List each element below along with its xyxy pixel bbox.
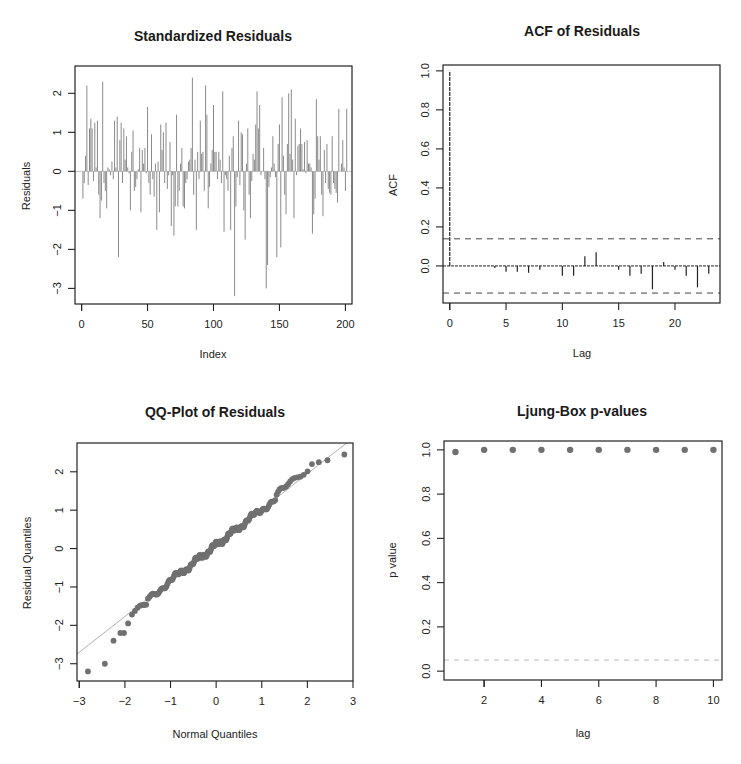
qq-point xyxy=(341,452,347,458)
x-tick-label: 0 xyxy=(447,317,453,329)
x-axis-label: Index xyxy=(200,348,227,360)
x-tick-label: 20 xyxy=(669,317,681,329)
qq-point xyxy=(305,468,311,474)
qq-point xyxy=(143,602,149,608)
x-tick-label: 150 xyxy=(270,318,288,330)
qq-point xyxy=(325,457,331,463)
x-axis-label: Lag xyxy=(573,347,591,359)
chart-title: ACF of Residuals xyxy=(524,23,640,39)
plot-frame xyxy=(443,65,720,303)
panel-acf-residuals: ACF of Residuals Lag ACF 051015200.00.20… xyxy=(387,23,720,359)
x-tick-label: 2 xyxy=(304,695,310,707)
x-tick-label: 0 xyxy=(213,695,219,707)
y-tick-label: 0.0 xyxy=(420,663,432,678)
chart-title: Standardized Residuals xyxy=(134,28,292,44)
y-tick-label: 0.2 xyxy=(420,619,432,634)
y-tick-label: −2 xyxy=(53,619,65,632)
y-tick-label: 0.2 xyxy=(419,219,431,234)
x-tick-label: −2 xyxy=(119,695,132,707)
y-axis: 0.00.20.40.60.81.0 xyxy=(419,63,443,273)
y-axis: −3−2−1012 xyxy=(51,90,75,294)
x-tick-label: −1 xyxy=(164,695,177,707)
x-tick-label: 6 xyxy=(596,694,602,706)
lb-point xyxy=(596,447,602,453)
panel-ljung-box: Ljung-Box p-values lag p value 2468100.0… xyxy=(386,403,722,739)
y-tick-label: 1.0 xyxy=(419,63,431,78)
chart-title: QQ-Plot of Residuals xyxy=(145,404,285,420)
y-axis: −3−2−1012 xyxy=(53,469,77,670)
lb-point xyxy=(653,447,659,453)
lb-point xyxy=(452,449,458,455)
panel-qq-plot: QQ-Plot of Residuals Normal Quantiles Re… xyxy=(21,404,356,740)
y-tick-label: 1 xyxy=(53,507,65,513)
y-tick-label: 0.4 xyxy=(419,180,431,195)
plot-area: −3−2−10123−3−2−1012 xyxy=(53,438,356,707)
y-tick-label: −3 xyxy=(53,657,65,670)
x-tick-label: 1 xyxy=(259,695,265,707)
y-tick-label: 0.8 xyxy=(420,486,432,501)
qq-points xyxy=(85,452,347,675)
chart-title: Ljung-Box p-values xyxy=(517,403,647,419)
y-tick-label: 0.0 xyxy=(419,258,431,273)
diagnostic-figure: Standardized Residuals Index Residuals 0… xyxy=(0,0,741,764)
qq-point xyxy=(121,630,127,636)
x-tick-label: 5 xyxy=(503,317,509,329)
y-tick-label: 0 xyxy=(53,546,65,552)
y-tick-label: 2 xyxy=(51,90,63,96)
qq-point xyxy=(85,669,91,675)
x-tick-label: 15 xyxy=(613,317,625,329)
x-tick-label: 50 xyxy=(141,318,153,330)
lb-point xyxy=(567,447,573,453)
plot-area: 051015200.00.20.40.60.81.0 xyxy=(419,63,720,329)
y-tick-label: 0.6 xyxy=(420,531,432,546)
qq-point xyxy=(316,459,322,465)
x-axis-label: Normal Quantiles xyxy=(173,728,258,740)
y-tick-label: 1 xyxy=(51,129,63,135)
y-tick-label: 0 xyxy=(51,168,63,174)
x-axis-label: lag xyxy=(576,727,591,739)
y-tick-label: −1 xyxy=(53,581,65,594)
x-axis: 05101520 xyxy=(447,303,681,329)
y-axis-label: Residuals xyxy=(20,161,32,210)
y-tick-label: 2 xyxy=(53,469,65,475)
x-tick-label: 4 xyxy=(538,694,544,706)
lb-points xyxy=(452,447,716,456)
lb-point xyxy=(538,447,544,453)
y-axis-label: p value xyxy=(386,542,398,577)
y-tick-label: 0.6 xyxy=(419,141,431,156)
y-tick-label: −1 xyxy=(51,204,63,217)
x-tick-label: 3 xyxy=(350,695,356,707)
x-axis: 246810 xyxy=(481,680,719,706)
y-axis-label: Residual Quantiles xyxy=(21,516,33,609)
lb-point xyxy=(510,447,516,453)
y-tick-label: 1.0 xyxy=(420,442,432,457)
plot-frame xyxy=(77,443,353,681)
plot-frame xyxy=(75,66,352,304)
qq-point xyxy=(309,461,315,467)
plot-area: 2468100.00.20.40.60.81.0 xyxy=(420,441,722,706)
qq-point xyxy=(272,497,278,503)
acf-spikes xyxy=(450,71,709,289)
x-axis: 050100150200 xyxy=(79,304,355,330)
plot-area: 050100150200−3−2−1012 xyxy=(51,66,355,330)
qq-point xyxy=(111,638,117,644)
y-tick-label: −3 xyxy=(51,282,63,295)
lb-point xyxy=(624,447,630,453)
y-axis-label: ACF xyxy=(387,174,399,196)
panel-standardized-residuals: Standardized Residuals Index Residuals 0… xyxy=(20,28,355,360)
x-tick-label: 8 xyxy=(653,694,659,706)
y-axis: 0.00.20.40.60.81.0 xyxy=(420,442,444,679)
y-tick-label: 0.8 xyxy=(419,102,431,117)
lb-point xyxy=(682,447,688,453)
y-tick-label: 0.4 xyxy=(420,575,432,590)
qq-point xyxy=(125,621,131,627)
x-tick-label: 2 xyxy=(481,694,487,706)
x-tick-label: 100 xyxy=(204,318,222,330)
x-tick-label: 10 xyxy=(556,317,568,329)
x-tick-label: −3 xyxy=(73,695,86,707)
x-tick-label: 0 xyxy=(79,318,85,330)
x-tick-label: 10 xyxy=(707,694,719,706)
residual-spikes xyxy=(83,78,347,296)
lb-point xyxy=(710,447,716,453)
lb-point xyxy=(481,447,487,453)
